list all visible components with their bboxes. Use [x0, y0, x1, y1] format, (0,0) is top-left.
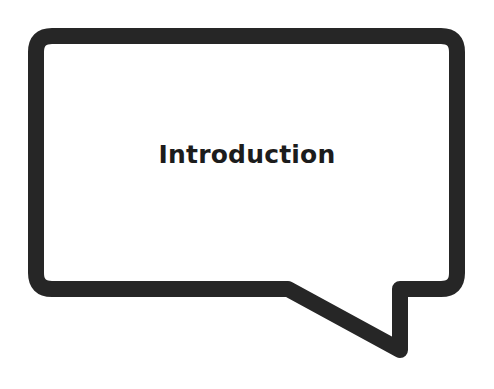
speech-bubble-outline: [36, 36, 457, 350]
bubble-title: Introduction: [0, 140, 494, 169]
speech-bubble-icon: [0, 0, 494, 389]
